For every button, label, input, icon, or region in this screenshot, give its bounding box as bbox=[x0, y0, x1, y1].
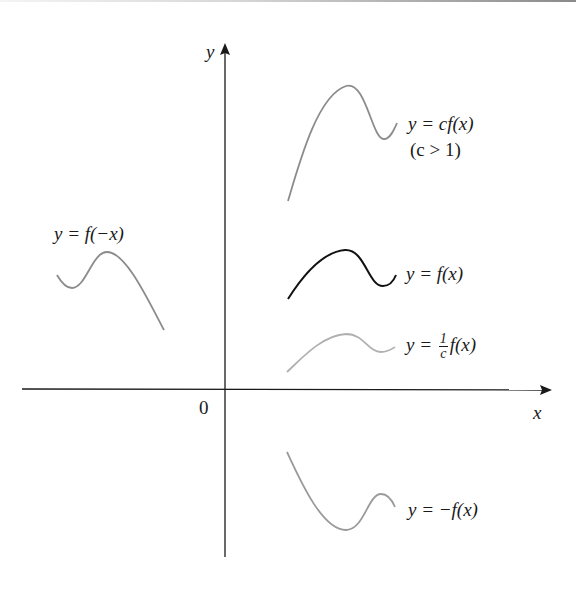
label-cf-condition: (c > 1) bbox=[410, 140, 461, 159]
y-axis-label: y bbox=[206, 42, 214, 61]
origin-label: 0 bbox=[199, 398, 209, 417]
curve-f-neg-x bbox=[57, 252, 164, 330]
label-cf: y = cf(x) bbox=[408, 114, 474, 133]
label-inv-c-prefix: y = bbox=[406, 334, 437, 355]
label-f: y = f(x) bbox=[406, 264, 463, 283]
transformations-diagram bbox=[0, 0, 576, 589]
fraction-numerator: 1 bbox=[439, 332, 448, 347]
curve-inv-c bbox=[287, 334, 395, 372]
curve-cf bbox=[288, 86, 397, 201]
label-neg-f: y = −f(x) bbox=[408, 500, 478, 519]
x-axis bbox=[22, 385, 552, 395]
label-inv-c-suffix: f(x) bbox=[450, 334, 476, 355]
fraction: 1c bbox=[439, 332, 448, 361]
y-axis bbox=[220, 43, 230, 557]
curve-f bbox=[288, 250, 396, 299]
x-axis-label: x bbox=[533, 403, 541, 422]
label-inv-c: y = 1cf(x) bbox=[406, 332, 476, 361]
curve-neg-f bbox=[287, 452, 395, 530]
label-f-neg-x: y = f(−x) bbox=[54, 224, 124, 243]
fraction-denominator: c bbox=[439, 347, 448, 361]
